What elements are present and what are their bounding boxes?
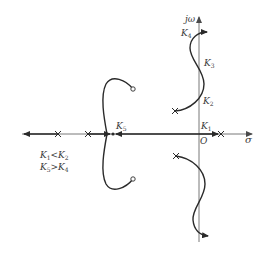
root-locus-diagram: jω σ O K4 K3 K2 K1 K5 K1<K2 K5>K4 <box>0 0 277 257</box>
locus-breakaway-lower <box>103 134 133 189</box>
breakaway-point-icon <box>111 132 114 135</box>
gain-label-k1: K1 <box>200 121 212 132</box>
locus-lower-complex <box>176 156 208 236</box>
real-axis-label: σ <box>245 134 253 145</box>
gain-label-k4: K4 <box>180 28 192 39</box>
zero-icon <box>131 87 135 91</box>
zero-icon <box>131 177 135 181</box>
gain-label-k2: K2 <box>202 96 214 107</box>
condition-k1-lt-k2: K1<K2 <box>39 150 69 161</box>
gain-label-k3: K3 <box>203 58 215 69</box>
imag-axis-label: jω <box>183 14 196 24</box>
condition-k5-gt-k4: K5>K4 <box>39 162 69 173</box>
gain-label-k5: K5 <box>115 121 127 132</box>
origin-label: O <box>200 136 208 146</box>
